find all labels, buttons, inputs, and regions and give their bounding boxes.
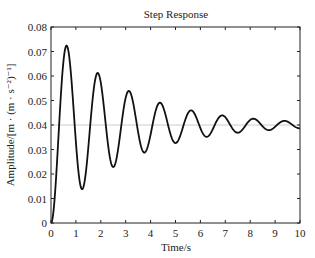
y-tick-label: 0 [42,217,48,229]
x-tick-label: 9 [272,227,278,239]
x-axis-label: Time/s [161,241,191,253]
x-tick-label: 7 [223,227,229,239]
x-tick-label: 5 [173,227,179,239]
y-tick-label: 0.08 [28,21,48,33]
y-tick-label: 0.07 [28,46,48,58]
response-curve [51,46,300,223]
y-tick-label: 0.01 [28,193,47,205]
x-tick-label: 0 [48,227,54,239]
y-tick-label: 0.02 [28,168,47,180]
chart-title: Step Response [144,8,209,20]
y-tick-label: 0.03 [28,144,48,156]
x-tick-label: 1 [73,227,79,239]
y-axis-label: Amplitude/[m · (m · s⁻²)⁻¹] [4,64,17,187]
x-tick-label: 8 [247,227,253,239]
step-response-chart: Step Response 012345678910 00.010.020.03… [0,0,315,258]
x-tick-label: 10 [295,227,307,239]
y-tick-label: 0.04 [28,119,48,131]
x-tick-label: 2 [98,227,104,239]
x-tick-label: 4 [148,227,154,239]
x-tick-label: 6 [198,227,204,239]
y-tick-label: 0.05 [28,95,48,107]
x-axis-ticks: 012345678910 [48,27,306,239]
series-line [51,46,300,223]
y-tick-label: 0.06 [28,70,48,82]
x-tick-label: 3 [123,227,129,239]
